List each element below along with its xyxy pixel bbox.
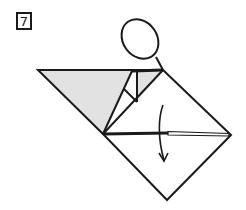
inner-crease-short bbox=[124, 89, 137, 102]
origami-diagram bbox=[0, 0, 246, 210]
valley-fold-line-thick bbox=[103, 133, 168, 134]
callout-leader-line bbox=[156, 57, 163, 70]
valley-fold-line-flap bbox=[168, 132, 229, 137]
magnify-circle bbox=[114, 12, 166, 66]
top-edge-thick bbox=[132, 70, 163, 71]
